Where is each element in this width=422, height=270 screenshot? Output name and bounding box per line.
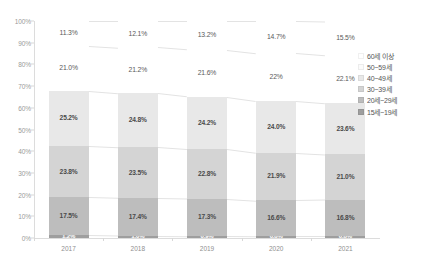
bar-segment-2019-30~39세[interactable]: 22.8% (187, 149, 227, 198)
bar-value-label: 17.3% (187, 213, 227, 220)
bar-segment-2017-20세~29세[interactable]: 17.5% (49, 197, 89, 235)
bar-value-label: 21.2% (118, 66, 158, 73)
x-axis-label-2017: 2017 (61, 245, 75, 252)
bar-value-label: 23.8% (49, 168, 89, 175)
legend-swatch-icon (358, 75, 364, 81)
bar-group-2019[interactable]: 0.9%17.3%22.8%24.2%21.6%13.2% (187, 21, 227, 238)
bar-segment-2021-30~39세[interactable]: 21.0% (325, 154, 365, 200)
bar-segment-2018-50~59세[interactable]: 21.2% (118, 47, 158, 93)
series-connector-line (89, 146, 118, 148)
y-tick-label: 80% (18, 61, 31, 68)
bar-value-label: 24.2% (187, 119, 227, 126)
series-connector-line (227, 97, 256, 102)
bar-value-label: 21.0% (49, 64, 89, 71)
y-tick-label: 30% (18, 169, 31, 176)
plot-area: 1.2%17.5%23.8%25.2%21.0%11.3%1.0%17.4%23… (34, 21, 380, 238)
bar-value-label: 17.5% (49, 212, 89, 219)
bar-value-label: 23.6% (325, 125, 365, 132)
y-tick-label: 20% (18, 191, 31, 198)
stacked-column-chart: 0%10%20%30%40%50%60%70%80%90%100% 1.2%17… (0, 0, 422, 270)
bar-segment-2020-30~39세[interactable]: 21.9% (256, 153, 296, 201)
legend-item-20세~29세[interactable]: 20세~29세 (358, 95, 422, 106)
bar-value-label: 14.7% (256, 33, 296, 40)
bar-segment-2021-20세~29세[interactable]: 16.8% (325, 200, 365, 236)
x-tick-mark (242, 238, 243, 241)
bar-segment-2021-15세~19세[interactable]: 0.8% (325, 236, 365, 238)
legend-swatch-icon (358, 64, 364, 70)
y-tick-label: 70% (18, 83, 31, 90)
legend-label: 60세 이상 (367, 51, 394, 61)
legend-label: 40~49세 (367, 73, 391, 83)
bar-value-label: 24.8% (118, 116, 158, 123)
series-connector-line (296, 53, 325, 56)
y-tick-label: 10% (18, 213, 31, 220)
bar-segment-2019-15세~19세[interactable]: 0.9% (187, 236, 227, 238)
y-axis: 0%10%20%30%40%50%60%70%80%90%100% (0, 0, 34, 270)
legend-item-60세 이상[interactable]: 60세 이상 (358, 50, 422, 61)
bar-value-label: 12.1% (118, 30, 158, 37)
bar-segment-2019-40~49세[interactable]: 24.2% (187, 97, 227, 150)
legend-label: 20세~29세 (367, 95, 397, 105)
bar-value-label: 21.9% (256, 172, 296, 179)
bar-value-label: 22.8% (187, 170, 227, 177)
bar-segment-2017-30~39세[interactable]: 23.8% (49, 146, 89, 198)
bar-segment-2019-20세~29세[interactable]: 17.3% (187, 199, 227, 237)
x-axis-label-2019: 2019 (200, 245, 214, 252)
series-connector-line (89, 46, 118, 49)
x-tick-mark (34, 238, 35, 241)
chart-legend: 60세 이상50~59세40~49세30~39세20세~29세15세~19세 (358, 50, 422, 117)
bar-group-2018[interactable]: 1.0%17.4%23.5%24.8%21.2%12.1% (118, 21, 158, 238)
y-tick-label: 0% (22, 235, 31, 242)
bar-segment-2017-15세~19세[interactable]: 1.2% (49, 235, 89, 238)
series-connector-line (227, 50, 256, 54)
series-connector-line (158, 147, 187, 150)
bar-segment-2020-60세 이상[interactable]: 14.7% (256, 21, 296, 53)
series-connector-line (89, 91, 118, 94)
series-connector-line (158, 236, 187, 237)
series-connector-line (227, 21, 256, 22)
x-tick-mark (172, 238, 173, 241)
series-connector-line (296, 200, 325, 201)
series-connector-line (158, 198, 187, 199)
legend-item-50~59세[interactable]: 50~59세 (358, 61, 422, 72)
bar-group-2017[interactable]: 1.2%17.5%23.8%25.2%21.0%11.3% (49, 21, 89, 238)
bar-segment-2017-60세 이상[interactable]: 11.3% (49, 21, 89, 46)
bar-segment-2018-15세~19세[interactable]: 1.0% (118, 236, 158, 238)
series-connector-line (158, 47, 187, 50)
y-tick-label: 50% (18, 126, 31, 133)
bar-segment-2020-15세~19세[interactable]: 0.8% (256, 236, 296, 238)
legend-swatch-icon (358, 86, 364, 92)
bar-value-label: 11.3% (49, 29, 89, 36)
series-connector-line (296, 101, 325, 104)
bar-value-label: 22% (256, 73, 296, 80)
legend-swatch-icon (358, 109, 364, 115)
legend-item-15세~19세[interactable]: 15세~19세 (358, 106, 422, 117)
bar-value-label: 25.2% (49, 114, 89, 121)
series-connector-line (227, 199, 256, 202)
series-connector-line (158, 93, 187, 97)
bar-value-label: 17.4% (118, 213, 158, 220)
series-connector-line (89, 235, 118, 236)
bar-segment-2018-20세~29세[interactable]: 17.4% (118, 198, 158, 236)
series-connector-line (227, 149, 256, 154)
series-connector-line (296, 21, 325, 22)
bar-segment-2019-60세 이상[interactable]: 13.2% (187, 21, 227, 50)
x-tick-mark (103, 238, 104, 241)
bar-value-label: 21.0% (325, 173, 365, 180)
bar-segment-2018-60세 이상[interactable]: 12.1% (118, 21, 158, 47)
bar-segment-2017-50~59세[interactable]: 21.0% (49, 46, 89, 92)
bar-segment-2017-40~49세[interactable]: 25.2% (49, 91, 89, 146)
legend-item-40~49세[interactable]: 40~49세 (358, 72, 422, 83)
bar-segment-2019-50~59세[interactable]: 21.6% (187, 50, 227, 97)
x-tick-mark (311, 238, 312, 241)
bar-group-2020[interactable]: 0.8%16.6%21.9%24.0%22%14.7% (256, 21, 296, 238)
y-tick-label: 60% (18, 104, 31, 111)
bar-segment-2018-30~39세[interactable]: 23.5% (118, 147, 158, 198)
bar-segment-2020-40~49세[interactable]: 24.0% (256, 101, 296, 153)
legend-swatch-icon (358, 97, 364, 103)
bar-segment-2018-40~49세[interactable]: 24.8% (118, 93, 158, 147)
series-connector-line (296, 153, 325, 156)
legend-item-30~39세[interactable]: 30~39세 (358, 84, 422, 95)
bar-segment-2020-20세~29세[interactable]: 16.6% (256, 200, 296, 236)
bar-segment-2020-50~59세[interactable]: 22% (256, 53, 296, 101)
